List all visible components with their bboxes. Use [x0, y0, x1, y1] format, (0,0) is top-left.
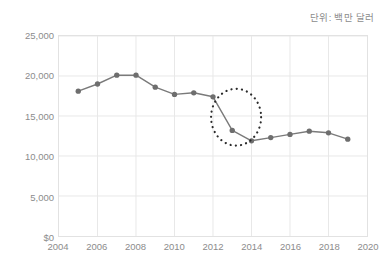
x-axis-tick: 2020 [357, 241, 378, 252]
x-axis-tick: 2004 [47, 241, 68, 252]
y-axis-tick: 25,000 [2, 30, 54, 41]
x-axis-tick: 2016 [280, 241, 301, 252]
x-axis-tick: 2012 [202, 241, 223, 252]
y-axis-tick: 5,000 [2, 191, 54, 202]
x-axis-tick: 2018 [319, 241, 340, 252]
x-axis-tick: 2008 [125, 241, 146, 252]
unit-caption: 단위: 백만 달러 [310, 10, 374, 24]
line-chart-svg [59, 36, 367, 236]
gridlines [59, 36, 367, 236]
y-axis-tick: 15,000 [2, 110, 54, 121]
x-axis-tick-labels: 200420062008201020122014201620182020 [0, 241, 386, 261]
y-axis-tick-labels: $05,00010,00015,00020,00025,000 [0, 0, 54, 270]
y-axis-tick: 10,000 [2, 151, 54, 162]
chart-screenshot: 단위: 백만 달러 $05,00010,00015,00020,00025,00… [0, 0, 386, 270]
highlight-ellipse-annotation [211, 89, 261, 146]
plot-area [58, 35, 368, 237]
x-axis-tick: 2006 [86, 241, 107, 252]
x-axis-tick: 2010 [164, 241, 185, 252]
y-axis-tick: 20,000 [2, 70, 54, 81]
x-axis-tick: 2014 [241, 241, 262, 252]
